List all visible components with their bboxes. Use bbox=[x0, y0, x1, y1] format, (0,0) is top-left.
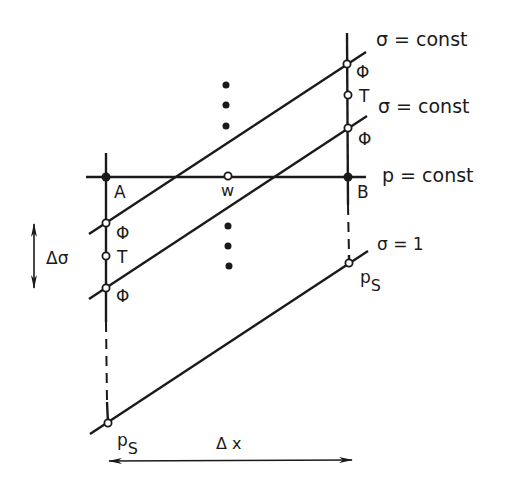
sigma-coordinate-diagram: σ = const σ = const p = const σ = 1 A B … bbox=[0, 0, 506, 485]
label-sigma-const-mid: σ = const bbox=[378, 95, 470, 117]
label-point-b: B bbox=[357, 182, 369, 202]
point-b-marker bbox=[344, 173, 353, 182]
label-phi-right-top: Φ bbox=[356, 62, 369, 82]
label-ps-right: pS bbox=[360, 267, 381, 295]
diagram-svg: σ = const σ = const p = const σ = 1 A B … bbox=[0, 0, 506, 485]
w-node bbox=[224, 172, 231, 179]
label-phi-right-mid: Φ bbox=[358, 129, 371, 149]
label-delta-sigma: Δσ bbox=[46, 248, 69, 268]
ps-node-left bbox=[104, 419, 111, 426]
ellipsis-dot-lower-3 bbox=[226, 263, 233, 270]
phi-node-left-bottom bbox=[102, 284, 109, 291]
label-phi-left-bottom: Φ bbox=[116, 286, 129, 306]
label-sigma-const-top: σ = const bbox=[376, 28, 468, 50]
ps-node-right bbox=[345, 259, 352, 266]
phi-node-right-mid bbox=[344, 124, 351, 131]
label-p-const: p = const bbox=[382, 164, 474, 186]
label-sigma-one: σ = 1 bbox=[377, 234, 424, 254]
right-column-dashed bbox=[348, 205, 349, 255]
label-ps-left: pS bbox=[117, 430, 138, 458]
ps-right-sub: S bbox=[371, 276, 381, 295]
t-node-right bbox=[344, 91, 351, 98]
point-a-marker bbox=[102, 173, 111, 182]
ps-left-main: p bbox=[117, 430, 128, 450]
ps-left-sub: S bbox=[128, 439, 138, 458]
label-point-a: A bbox=[114, 182, 126, 202]
label-t-right: T bbox=[358, 86, 370, 106]
ellipsis-dot-upper-1 bbox=[223, 82, 230, 89]
left-column-dashed bbox=[106, 322, 107, 402]
ellipsis-dot-lower-1 bbox=[225, 223, 232, 230]
t-node-left bbox=[102, 252, 109, 259]
phi-node-left-top bbox=[102, 219, 109, 226]
phi-node-right-top bbox=[343, 60, 350, 67]
sigma-one-line bbox=[90, 251, 368, 434]
label-point-w: w bbox=[221, 181, 234, 200]
label-t-left: T bbox=[116, 247, 128, 267]
label-phi-left-top: Φ bbox=[116, 223, 129, 243]
delta-x-arrow bbox=[109, 460, 352, 461]
ellipsis-dot-upper-2 bbox=[223, 102, 230, 109]
ellipsis-dot-lower-2 bbox=[225, 243, 232, 250]
ps-right-main: p bbox=[360, 267, 371, 287]
ellipsis-dot-upper-3 bbox=[223, 123, 230, 130]
label-delta-x: Δ x bbox=[216, 434, 242, 453]
